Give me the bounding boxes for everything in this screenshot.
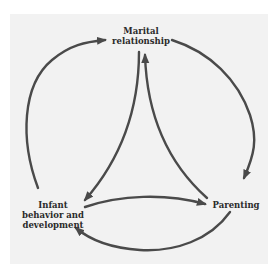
- arrow-parenting-to-marital: [145, 55, 207, 198]
- arrow-marital-to-parenting: [172, 40, 254, 178]
- arrow-infant-to-marital: [26, 40, 105, 188]
- node-parenting: Parenting: [210, 200, 262, 210]
- arrow-parenting-to-infant: [76, 212, 230, 250]
- node-marital-relationship: Marital relationship: [108, 26, 174, 46]
- arrow-infant-to-parenting: [85, 197, 205, 207]
- node-infant-behavior-development: Infant behavior and development: [16, 200, 90, 230]
- arrow-marital-to-infant: [85, 52, 139, 200]
